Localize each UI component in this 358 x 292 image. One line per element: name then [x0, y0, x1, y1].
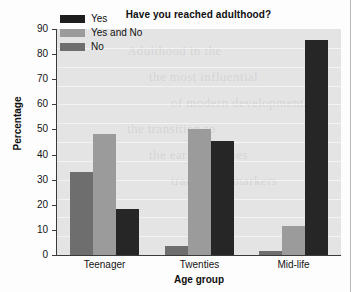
- y-tick-mark: [52, 255, 57, 256]
- legend-swatch: [60, 29, 85, 37]
- chart-legend: YesYes and NoNo: [60, 12, 142, 54]
- y-tick-label: 50: [24, 123, 48, 134]
- y-tick-label: 90: [24, 23, 48, 34]
- x-tick-label: Mid-life: [246, 259, 341, 270]
- y-tick-label: 0: [24, 249, 48, 260]
- x-tick-label: Teenager: [57, 259, 152, 270]
- legend-item: Yes: [60, 12, 142, 25]
- bar: [211, 141, 234, 255]
- y-tick-label: 70: [24, 73, 48, 84]
- bar: [188, 129, 211, 255]
- y-axis-line: [56, 29, 57, 256]
- bar: [305, 40, 328, 255]
- y-tick-mark: [52, 129, 57, 130]
- bar: [70, 172, 93, 255]
- scan-gridline: [57, 67, 341, 68]
- y-tick-mark: [52, 54, 57, 55]
- legend-label: No: [91, 41, 104, 52]
- x-axis-tick-labels: TeenagerTwentiesMid-life: [57, 259, 341, 275]
- y-tick-mark: [52, 79, 57, 80]
- legend-label: Yes and No: [91, 27, 142, 38]
- y-tick-label: 40: [24, 149, 48, 160]
- y-tick-mark: [52, 205, 57, 206]
- bar: [116, 209, 139, 255]
- y-tick-label: 80: [24, 48, 48, 59]
- ghost-text: the most influential: [149, 69, 258, 85]
- y-tick-mark: [52, 230, 57, 231]
- x-axis-title: Age group: [57, 274, 341, 285]
- legend-item: Yes and No: [60, 26, 142, 39]
- y-tick-mark: [52, 180, 57, 181]
- legend-label: Yes: [91, 13, 107, 24]
- y-axis-title: Percentage: [12, 69, 23, 179]
- y-tick-label: 20: [24, 199, 48, 210]
- scan-gridline: [57, 86, 341, 87]
- page-margin: [351, 0, 358, 292]
- bar: [93, 134, 116, 255]
- bar: [282, 226, 305, 255]
- bar-chart-figure: Have you reached adulthood? Percentage 0…: [0, 0, 351, 292]
- legend-swatch: [60, 15, 85, 23]
- x-axis-line: [56, 255, 341, 256]
- y-tick-mark: [52, 29, 57, 30]
- y-tick-label: 30: [24, 174, 48, 185]
- y-tick-mark: [52, 104, 57, 105]
- y-tick-label: 10: [24, 224, 48, 235]
- scan-gridline: [57, 104, 341, 105]
- legend-item: No: [60, 40, 142, 53]
- plot-area: Adulthood in thethe most influentialof m…: [57, 29, 341, 255]
- ghost-text: of modern developmental: [171, 95, 314, 111]
- y-tick-mark: [52, 155, 57, 156]
- x-tick-label: Twenties: [152, 259, 247, 270]
- scanned-page: Have you reached adulthood? Percentage 0…: [0, 0, 358, 292]
- legend-swatch: [60, 43, 85, 51]
- y-axis-tick-labels: 0102030405060708090: [22, 0, 48, 292]
- y-tick-label: 60: [24, 98, 48, 109]
- scan-gridline: [57, 123, 341, 124]
- bar: [165, 246, 188, 255]
